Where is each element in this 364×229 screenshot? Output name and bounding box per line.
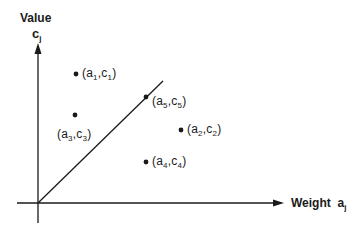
y-axis-arrow-icon: [35, 43, 42, 54]
y-axis-symbol: cj: [32, 27, 41, 43]
x-axis-title: Weight aj: [291, 197, 346, 212]
point-dot-3: [73, 113, 78, 118]
point-dot-1: [74, 72, 79, 77]
point-dot-2: [179, 128, 184, 133]
point-dot-5: [144, 95, 149, 100]
point-label-3: (a3,c3): [57, 128, 91, 143]
point-label-5: (a5,c5): [152, 95, 186, 110]
point-dot-4: [144, 160, 149, 165]
point-label-1: (a1,c1): [82, 67, 116, 82]
x-axis-arrow-icon: [273, 200, 284, 207]
point-label-2: (a2,c2): [187, 123, 221, 138]
y-axis-title: Value: [20, 12, 51, 24]
diagram-canvas: [0, 0, 364, 229]
point-label-4: (a4,c4): [152, 155, 186, 170]
